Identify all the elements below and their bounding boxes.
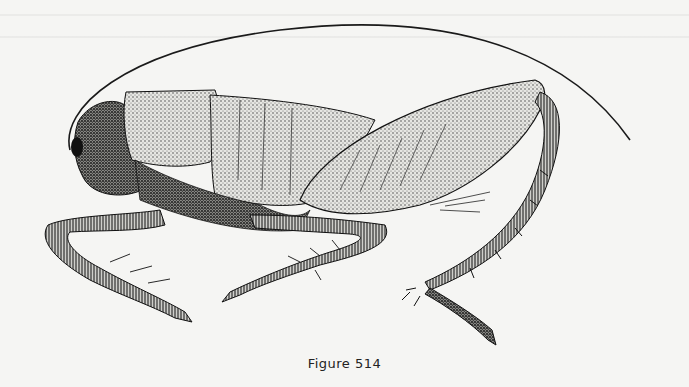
figure-caption: Figure 514 bbox=[0, 356, 689, 371]
cricket-illustration bbox=[0, 0, 689, 350]
eye bbox=[71, 137, 83, 157]
hind-tarsus bbox=[425, 288, 496, 345]
front-leg bbox=[45, 210, 192, 322]
scanned-page: Figure 514 bbox=[0, 0, 689, 387]
pronotum bbox=[124, 90, 219, 166]
